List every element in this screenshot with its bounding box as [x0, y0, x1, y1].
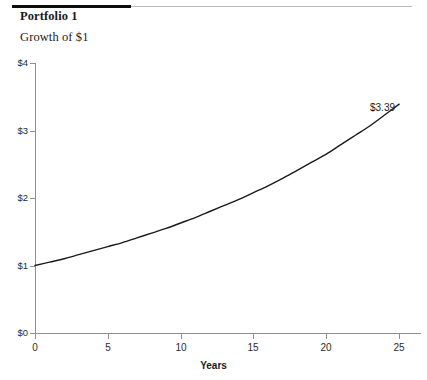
series-path-growth: [35, 104, 399, 265]
series-line-chart: [0, 0, 427, 380]
endpoint-value-label: $3.39: [370, 102, 395, 113]
x-axis-title: Years: [0, 360, 427, 371]
chart-page: Portfolio 1 Growth of $1 $0$1$2$3$4 0510…: [0, 0, 427, 380]
plot-area: $0$1$2$3$4 0510152025 $3.39: [0, 0, 427, 380]
